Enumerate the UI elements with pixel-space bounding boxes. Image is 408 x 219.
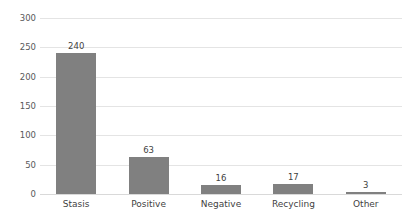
y-axis-tick-label: 50	[2, 160, 36, 170]
bar	[273, 184, 313, 194]
y-axis-tick-label: 100	[2, 130, 36, 140]
x-axis-tick-label: Other	[353, 199, 379, 209]
bar-value-label: 17	[288, 172, 299, 182]
y-axis: 050100150200250300	[0, 18, 36, 194]
bar-slot: 17	[257, 18, 329, 194]
bar-slot: 16	[185, 18, 257, 194]
gridline	[40, 194, 402, 195]
x-axis-tick-label: Stasis	[63, 199, 90, 209]
bar	[56, 53, 96, 194]
x-axis-tick-label: Negative	[201, 199, 241, 209]
bar-value-label: 63	[143, 145, 154, 155]
x-axis-tick-label: Recycling	[272, 199, 315, 209]
bar-value-label: 16	[216, 173, 227, 183]
x-axis-tick-label: Positive	[131, 199, 166, 209]
bar	[201, 185, 241, 194]
bar-slot: 63	[112, 18, 184, 194]
y-axis-tick-label: 150	[2, 101, 36, 111]
y-axis-tick-label: 300	[2, 13, 36, 23]
y-axis-tick-label: 200	[2, 72, 36, 82]
bar-value-label: 240	[68, 41, 84, 51]
y-axis-tick-label: 250	[2, 42, 36, 52]
bar-value-label: 3	[363, 180, 368, 190]
bar	[346, 192, 386, 194]
bar-slot: 240	[40, 18, 112, 194]
y-axis-tick-label: 0	[2, 189, 36, 199]
bar	[129, 157, 169, 194]
bar-chart: 050100150200250300 2406316173 StasisPosi…	[0, 0, 408, 219]
bar-slot: 3	[330, 18, 402, 194]
x-axis: StasisPositiveNegativeRecyclingOther	[40, 197, 402, 217]
bars-layer: 2406316173	[40, 18, 402, 194]
